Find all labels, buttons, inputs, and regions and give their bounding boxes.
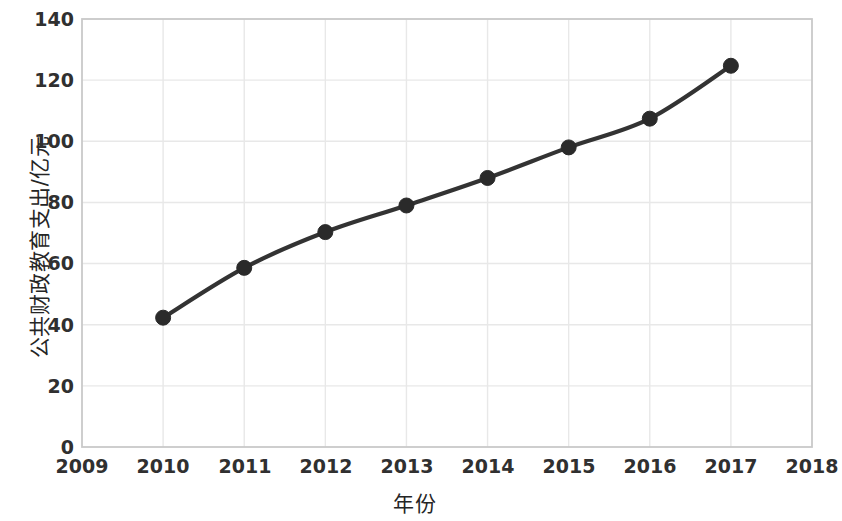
data-point-marker: [156, 310, 171, 325]
data-point-marker: [318, 225, 333, 240]
data-point-marker: [480, 170, 495, 185]
data-point-marker: [399, 198, 414, 213]
data-point-marker: [237, 260, 252, 275]
data-point-marker: [642, 111, 657, 126]
data-point-marker: [561, 140, 576, 155]
data-point-marker: [723, 58, 738, 73]
data-series-line: [163, 66, 731, 318]
